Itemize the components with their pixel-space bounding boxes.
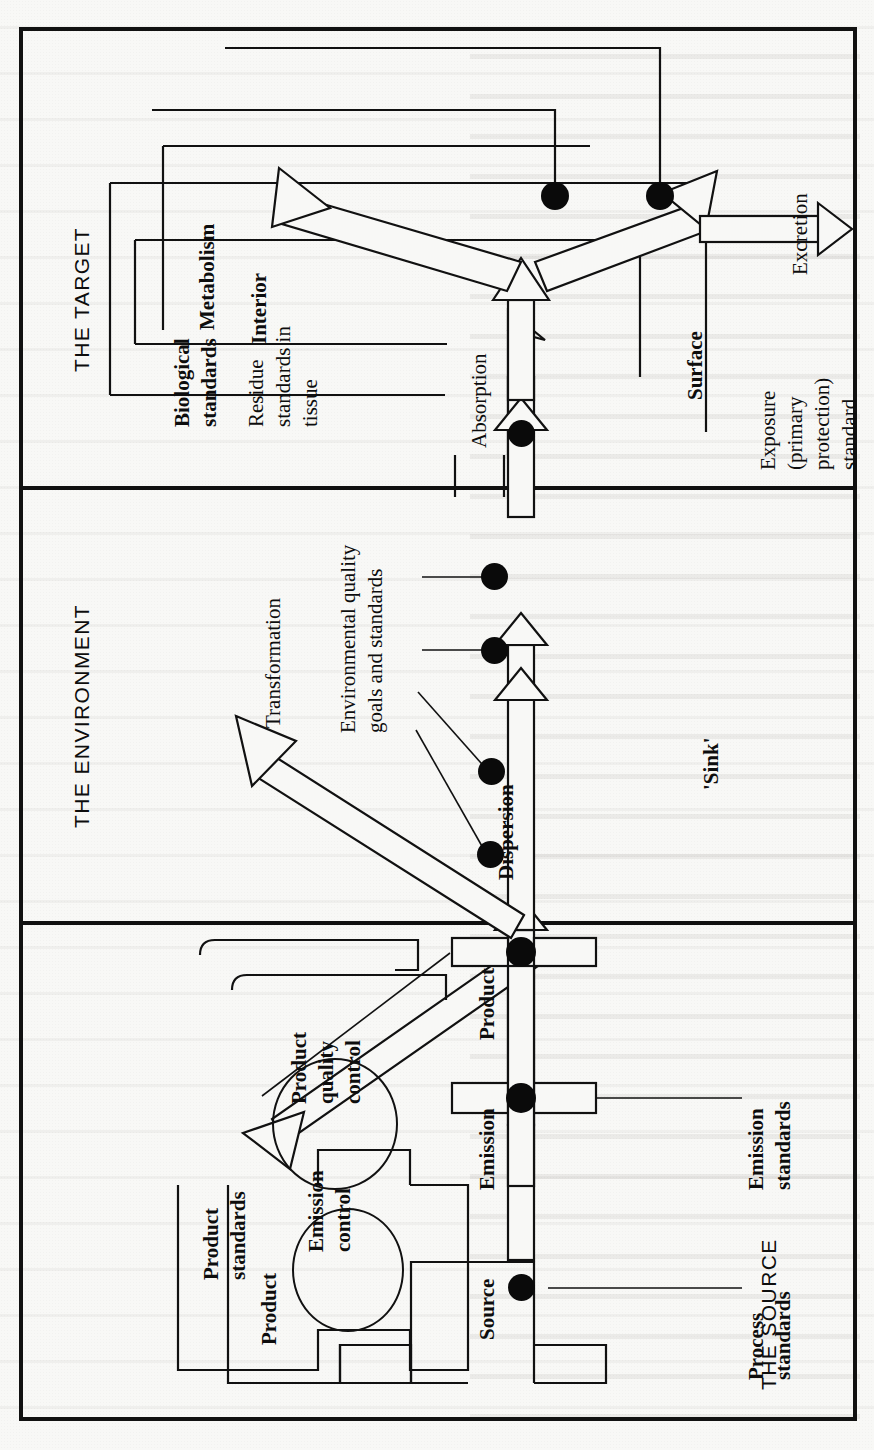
source-node-label: Source [476, 1279, 500, 1340]
divider-target-environment [23, 486, 853, 490]
eq-dot-1 [481, 563, 508, 590]
section-title-target: THE TARGET [70, 227, 94, 372]
emission-flow-label: Emission [476, 1108, 500, 1190]
residue-standards-dot [646, 182, 674, 210]
emission-junction-dot [506, 1083, 536, 1113]
transformation-flow-label: Transformation [262, 598, 286, 728]
metabolism-box-label: Metabolism [196, 224, 220, 330]
interior-box-label: Interior [248, 273, 272, 344]
source-junction-dot [508, 1274, 535, 1301]
product-node-label: Product [476, 968, 500, 1040]
sink-flow-label: 'Sink' [700, 737, 724, 790]
excretion-flow-label: Excretion [789, 193, 813, 275]
product-box-label: Product [258, 1273, 282, 1345]
eq-dot-3 [478, 758, 505, 785]
absorption-flow-label: Absorption [468, 354, 492, 449]
section-title-environment: THE ENVIRONMENT [70, 604, 94, 828]
biological-standards-dot [541, 182, 569, 210]
divider-environment-source [23, 921, 853, 925]
product-junction-dot [506, 937, 536, 967]
absorption-dot [508, 420, 535, 447]
diagram-outer-frame [19, 27, 857, 1421]
product-quality-control-ellipse [272, 1058, 398, 1190]
emission-control-ellipse [292, 1208, 404, 1332]
scanned-page: THE TARGET THE ENVIRONMENT THE SOURCE Bi… [0, 0, 874, 1450]
eq-dot-2 [481, 637, 508, 664]
eq-dot-4 [477, 841, 504, 868]
dispersion-flow-label: Dispersion [495, 784, 519, 880]
surface-box-label: Surface [684, 331, 708, 400]
